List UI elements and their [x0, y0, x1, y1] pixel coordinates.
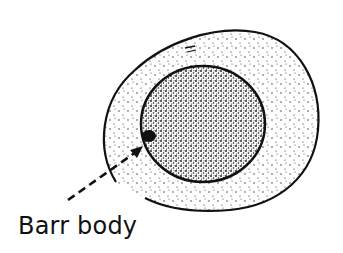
diagram-canvas: Barr body [0, 0, 343, 253]
barr-body-label: Barr body [18, 212, 137, 240]
barr-body [142, 130, 156, 142]
nucleus [141, 66, 265, 182]
